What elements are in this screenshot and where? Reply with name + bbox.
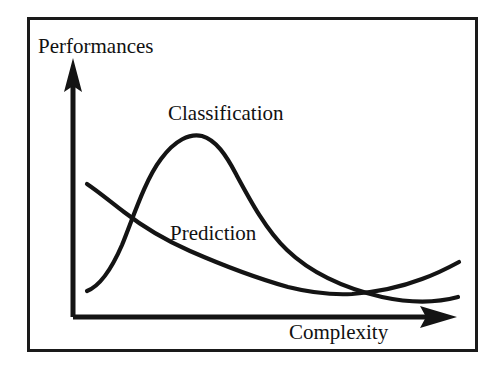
series-label-prediction: Prediction <box>170 223 256 244</box>
curve-prediction <box>87 184 459 294</box>
y-axis <box>64 58 82 317</box>
y-axis-label: Performances <box>38 36 153 57</box>
figure-root: Performances Classification Prediction C… <box>0 0 503 371</box>
x-axis-label: Complexity <box>289 322 388 343</box>
x-axis <box>73 306 457 328</box>
curve-classification <box>87 135 458 301</box>
series-label-classification: Classification <box>168 103 283 124</box>
